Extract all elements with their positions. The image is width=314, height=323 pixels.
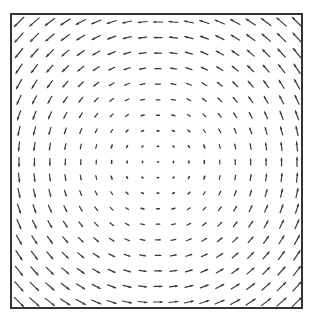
quiver-plot — [0, 0, 314, 323]
vector-arrow — [96, 176, 97, 180]
vector-arrow — [111, 130, 113, 133]
vector-arrow — [126, 208, 129, 210]
arrowhead-icon — [200, 20, 203, 23]
plot-frame — [11, 14, 302, 308]
vector-arrow — [141, 99, 145, 100]
arrowhead-icon — [265, 159, 267, 161]
vector-arrows — [14, 17, 302, 306]
vector-arrow — [188, 192, 190, 194]
vector-arrow — [173, 177, 174, 178]
arrowhead-icon — [206, 300, 209, 303]
arrowhead-icon — [33, 164, 35, 167]
vector-arrow — [141, 224, 145, 225]
arrowhead-icon — [49, 163, 51, 165]
vector-arrow — [110, 207, 113, 210]
arrowhead-icon — [64, 163, 66, 165]
arrowhead-icon — [155, 52, 157, 54]
arrowhead-icon — [107, 21, 110, 24]
vector-arrow — [142, 146, 143, 147]
vector-arrow — [173, 146, 174, 147]
vector-arrow — [173, 193, 175, 194]
vector-arrow — [188, 208, 191, 210]
vector-arrow — [204, 145, 205, 148]
vector-arrow — [142, 131, 144, 132]
vector-arrow — [172, 115, 175, 116]
vector-arrow — [219, 145, 220, 149]
arrowhead-icon — [159, 270, 161, 272]
vector-arrow — [173, 131, 175, 132]
vector-arrow — [142, 193, 144, 194]
vector-arrow — [126, 192, 128, 194]
vector-arrow — [111, 192, 113, 195]
arrowhead-icon — [154, 36, 157, 39]
vector-arrow — [126, 114, 129, 116]
vector-arrow — [127, 177, 128, 179]
vector-arrow — [111, 176, 112, 179]
arrowhead-icon — [155, 68, 157, 70]
vector-arrow — [188, 146, 189, 148]
arrowhead-icon — [280, 158, 283, 161]
vector-arrow — [172, 99, 176, 100]
vector-arrow — [172, 208, 175, 209]
vector-arrow — [219, 176, 220, 180]
vector-arrow — [203, 130, 205, 133]
arrowhead-icon — [17, 117, 20, 120]
vector-arrow — [141, 115, 144, 116]
arrowhead-icon — [18, 164, 21, 167]
vector-arrow — [96, 145, 97, 149]
vector-arrow — [203, 192, 205, 195]
vector-arrow — [172, 224, 176, 225]
vector-arrow — [127, 146, 128, 148]
arrowhead-icon — [153, 21, 156, 24]
arrowhead-icon — [296, 158, 299, 161]
vector-arrow — [188, 130, 190, 132]
figure-caption — [60, 310, 260, 320]
vector-arrow — [203, 207, 206, 210]
vector-arrow — [142, 177, 143, 178]
vector-arrow — [111, 145, 112, 148]
vector-arrow — [126, 130, 128, 132]
vector-arrow — [141, 208, 144, 209]
vector-arrow — [188, 114, 191, 116]
arrowhead-icon — [160, 301, 163, 304]
vector-arrow — [204, 176, 205, 179]
vector-arrow — [189, 177, 190, 179]
arrowhead-icon — [296, 204, 299, 207]
arrowhead-icon — [169, 36, 172, 39]
arrowhead-icon — [160, 285, 163, 288]
